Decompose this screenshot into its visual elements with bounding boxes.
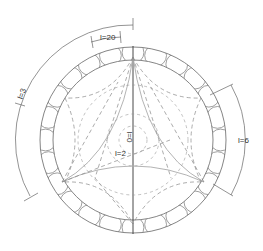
l3-dimension <box>15 18 133 201</box>
label-l2: l=2 <box>115 150 126 158</box>
orbit-diagram <box>0 0 263 251</box>
label-l0: l=0 <box>125 132 133 143</box>
diagram-canvas: l=20 l=3 l=0 l=2 l=6 <box>0 0 263 251</box>
label-l6: l=6 <box>238 137 249 145</box>
label-l20: l=20 <box>100 34 115 42</box>
